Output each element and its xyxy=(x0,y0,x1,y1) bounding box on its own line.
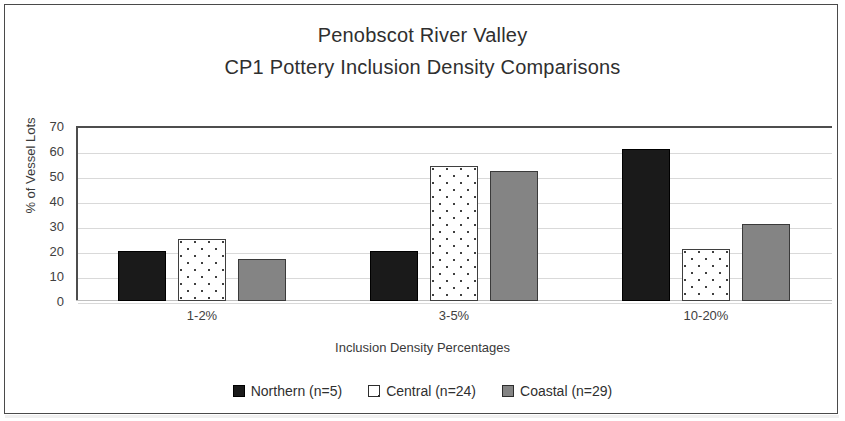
y-axis-tick-labels: 706050403020100 xyxy=(0,126,70,301)
bar xyxy=(370,251,418,301)
y-axis-tick-label: 40 xyxy=(50,194,64,209)
bar xyxy=(622,149,670,302)
legend-item[interactable]: Northern (n=5) xyxy=(233,383,342,399)
bar xyxy=(430,166,478,301)
y-axis-tick-label: 60 xyxy=(50,144,64,159)
chart-legend: Northern (n=5)Central (n=24)Coastal (n=2… xyxy=(0,383,845,399)
bar xyxy=(682,249,730,302)
y-axis-tick-label: 10 xyxy=(50,269,64,284)
chart-title: Penobscot River Valley xyxy=(0,20,845,50)
chart-figure: Penobscot River Valley CP1 Pottery Inclu… xyxy=(0,0,845,421)
bar xyxy=(742,224,790,302)
x-axis-tick-label: 3-5% xyxy=(439,308,469,323)
bar xyxy=(490,171,538,301)
x-axis-tick-label: 10-20% xyxy=(684,308,729,323)
legend-item[interactable]: Coastal (n=29) xyxy=(502,383,612,399)
legend-label: Central (n=24) xyxy=(386,383,476,399)
legend-label: Northern (n=5) xyxy=(251,383,342,399)
x-axis-title: Inclusion Density Percentages xyxy=(0,340,845,355)
legend-swatch-icon xyxy=(233,385,245,397)
y-axis-tick-label: 30 xyxy=(50,219,64,234)
bars-layer xyxy=(76,126,832,301)
legend-label: Coastal (n=29) xyxy=(520,383,612,399)
figure-shadow xyxy=(5,415,839,418)
legend-item[interactable]: Central (n=24) xyxy=(368,383,476,399)
y-axis-tick-label: 0 xyxy=(57,294,64,309)
gridline xyxy=(78,303,832,304)
chart-subtitle: CP1 Pottery Inclusion Density Comparison… xyxy=(0,52,845,82)
bar xyxy=(118,251,166,301)
legend-swatch-icon xyxy=(502,385,514,397)
y-axis-tick-label: 50 xyxy=(50,169,64,184)
y-axis-tick-label: 20 xyxy=(50,244,64,259)
legend-swatch-icon xyxy=(368,385,380,397)
bar-group xyxy=(118,126,286,301)
bar-group xyxy=(622,126,790,301)
x-axis-tick-label: 1-2% xyxy=(187,308,217,323)
bar xyxy=(178,239,226,302)
bar xyxy=(238,259,286,302)
y-axis-tick-label: 70 xyxy=(50,119,64,134)
x-axis-tick-labels: 1-2%3-5%10-20% xyxy=(76,308,832,330)
bar-group xyxy=(370,126,538,301)
